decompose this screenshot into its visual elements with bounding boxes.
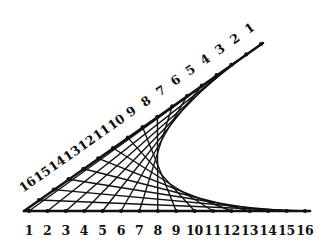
bottom-point [27,209,31,213]
diagonal-point-label: 3 [212,40,228,57]
diagonal-point-label: 9 [123,103,139,120]
bottom-point-label: 10 [186,223,204,238]
diagonal-point [155,115,159,119]
diagonal-point [37,198,41,202]
bottom-point [64,209,68,213]
diagonal-point [111,146,115,150]
bottom-point [45,209,49,213]
bottom-point [229,209,233,213]
diagonal-point-label: 2 [227,30,243,47]
bottom-point-label: 7 [135,223,144,238]
diagonal-point-label: 8 [138,92,154,109]
diagonal-point [141,125,145,129]
bottom-point-label: 6 [117,223,126,238]
diagonal-point [244,52,248,56]
bottom-point [119,209,123,213]
diagonal-point-label: 4 [197,51,213,68]
diagonal-point [52,188,56,192]
bottom-point [101,209,105,213]
string-lines [29,44,305,211]
bottom-point-label: 4 [80,223,89,238]
bottom-point-label: 16 [296,223,314,238]
string-line [84,75,216,211]
bottom-axis-labels: 12345678910111213141516 [25,223,314,238]
bottom-point-label: 3 [61,223,70,238]
bottom-point-label: 13 [241,223,258,238]
bottom-point [82,209,86,213]
bottom-point-label: 8 [153,223,162,238]
bottom-point-label: 5 [98,223,107,238]
diagonal-point [81,167,85,171]
bottom-point-label: 15 [278,223,295,238]
diagonal-point [259,42,263,46]
string-art-canvas: 12345678910111213141516 1234567891011121… [0,0,332,250]
diagonal-point [229,63,233,67]
bottom-point [193,209,197,213]
diagonal-point [170,104,174,108]
bottom-point [137,209,141,213]
diagonal-point [200,84,204,88]
bottom-point-label: 11 [204,223,221,238]
diagonal-point [185,94,189,98]
diagonal-point [96,156,100,160]
diagonal-point-label: 5 [182,61,198,78]
bottom-point-label: 14 [259,223,277,238]
bottom-point [266,209,270,213]
diagonal-point-label: 6 [168,71,184,88]
bottom-point-label: 1 [25,223,34,238]
diagonal-point-label: 7 [153,82,169,99]
bottom-point-label: 2 [43,223,52,238]
bottom-point [285,209,289,213]
bottom-point-label: 12 [223,223,240,238]
diagonal-point-label: 1 [242,20,258,37]
bottom-point [211,209,215,213]
bottom-point [174,209,178,213]
string-art-diagram: 12345678910111213141516 1234567891011121… [0,0,332,250]
bottom-point [156,209,160,213]
string-line [54,190,287,211]
bottom-point-label: 9 [172,223,181,238]
diagonal-point [67,177,71,181]
bottom-point [248,209,252,213]
diagonal-point [215,73,219,77]
diagonal-point [126,136,130,140]
bottom-point [303,209,307,213]
